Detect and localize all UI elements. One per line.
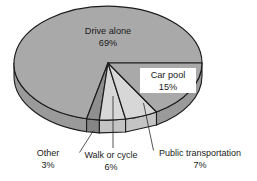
label-other-name: Other: [37, 148, 60, 158]
label-drive-alone-name: Drive alone: [85, 26, 131, 36]
label-drive-alone-value: 69%: [99, 38, 117, 48]
label-public-transportation-value: 7%: [193, 160, 206, 170]
label-other: Other 3%: [37, 148, 60, 170]
pie-chart: Drive alone 69% Car pool 15% Other 3% Wa…: [0, 0, 257, 181]
label-other-value: 3%: [41, 160, 54, 170]
label-public-transportation-name: Public transportation: [159, 148, 241, 158]
label-walk-or-cycle: Walk or cycle 6%: [84, 150, 137, 172]
wall-walk-or-cycle: [99, 119, 125, 133]
label-car-pool-name: Car pool: [151, 70, 186, 80]
label-walk-or-cycle-value: 6%: [104, 162, 117, 172]
label-public-transportation: Public transportation 7%: [159, 148, 241, 170]
pie-top-faces: [14, 6, 202, 120]
label-car-pool-value: 15%: [159, 82, 177, 92]
label-car-pool: Car pool 15%: [140, 68, 196, 93]
pie-chart-canvas: Drive alone 69% Car pool 15% Other 3% Wa…: [0, 0, 257, 181]
label-walk-or-cycle-name: Walk or cycle: [84, 150, 137, 160]
